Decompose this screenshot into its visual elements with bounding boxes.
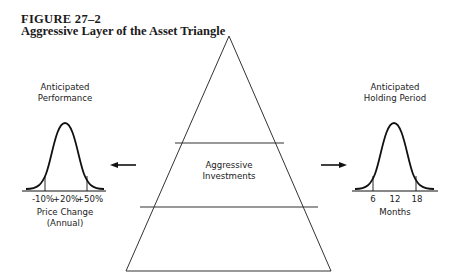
left-arrow-icon — [110, 162, 136, 168]
layer-label-line1: Aggressive — [189, 160, 269, 171]
left-title-line2: Performance — [20, 93, 110, 104]
left-bell-curve — [26, 123, 104, 189]
left-axis-label: Price Change (Annual) — [20, 207, 110, 229]
right-title-line1: Anticipated — [350, 82, 440, 93]
left-xlabel-line1: Price Change — [20, 207, 110, 218]
right-title-line2: Holding Period — [350, 93, 440, 104]
right-tick-label-high: 18 — [412, 194, 423, 204]
layer-label-line2: Investments — [189, 171, 269, 182]
right-panel-title: Anticipated Holding Period — [350, 82, 440, 104]
left-distribution-chart — [22, 123, 106, 191]
right-tick-label-mid: 12 — [390, 194, 401, 204]
triangle-outline — [126, 36, 331, 271]
left-tick-label-mid: +20% — [53, 194, 79, 204]
right-axis-label: Months — [350, 207, 440, 218]
left-title-line1: Anticipated — [20, 82, 110, 93]
left-panel-title: Anticipated Performance — [20, 82, 110, 104]
aggressive-investments-label: Aggressive Investments — [189, 160, 269, 182]
left-tick-label-low: -10% — [32, 194, 54, 204]
right-tick-label-low: 6 — [370, 194, 375, 204]
diagram-canvas — [0, 0, 457, 274]
asset-triangle — [126, 36, 331, 271]
right-bell-curve — [355, 123, 434, 189]
right-distribution-chart — [352, 123, 438, 191]
right-arrow-icon — [321, 162, 347, 168]
left-xlabel-line2: (Annual) — [20, 218, 110, 229]
left-tick-label-high: +50% — [77, 194, 103, 204]
